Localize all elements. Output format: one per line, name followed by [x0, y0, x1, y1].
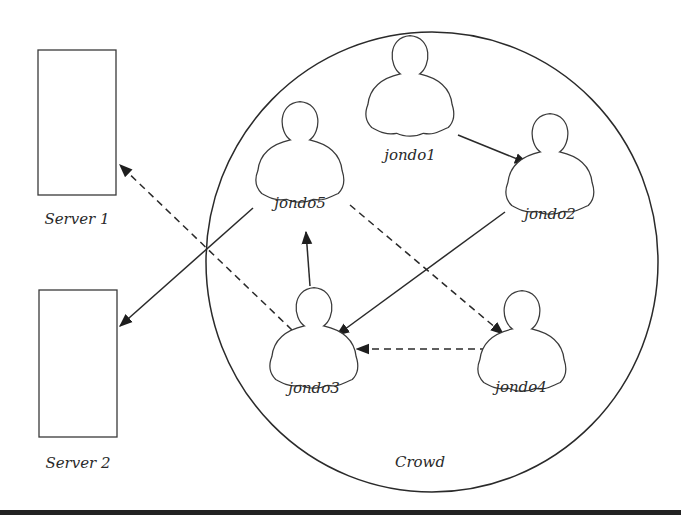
- node-jondo2[interactable]: jondo2: [506, 114, 594, 223]
- edge-jondo3-jondo5: [306, 232, 310, 286]
- node-jondo1[interactable]: jondo1: [366, 36, 454, 164]
- jondo4-label: jondo4: [492, 378, 547, 396]
- edge-jondo2-jondo3: [337, 212, 505, 335]
- edge-jondo1-jondo2: [458, 135, 527, 163]
- server-1-label: Server 1: [44, 210, 109, 228]
- crowd-label: Crowd: [395, 453, 445, 471]
- edge-jondo5-jondo4: [350, 205, 503, 334]
- server-2[interactable]: Server 2: [39, 290, 117, 472]
- node-jondo4[interactable]: jondo4: [478, 291, 566, 396]
- node-jondo5[interactable]: jondo5: [256, 102, 344, 212]
- crowds-diagram: Server 1 Server 2 jondo1 jondo2 jondo5 j…: [0, 0, 681, 522]
- edge-jondo5-server2: [120, 208, 253, 326]
- jondo5-label: jondo5: [271, 194, 326, 212]
- jondo1-label: jondo1: [381, 146, 436, 164]
- jondo3-label: jondo3: [285, 379, 340, 397]
- node-jondo3[interactable]: jondo3: [270, 288, 358, 397]
- server-2-label: Server 2: [45, 454, 110, 472]
- bottom-rule: [0, 510, 681, 515]
- jondo2-label: jondo2: [521, 205, 576, 223]
- server-1[interactable]: Server 1: [38, 50, 116, 228]
